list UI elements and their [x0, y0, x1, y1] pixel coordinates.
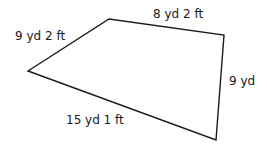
side-label-top-left: 9 yd 2 ft [15, 30, 65, 42]
diagram-canvas: 9 yd 2 ft 8 yd 2 ft 9 yd 15 yd 1 ft [0, 0, 267, 148]
side-label-right: 9 yd [229, 75, 255, 87]
side-label-top: 8 yd 2 ft [153, 8, 203, 20]
side-label-bottom: 15 yd 1 ft [66, 114, 124, 126]
quadrilateral-shape [0, 0, 267, 148]
